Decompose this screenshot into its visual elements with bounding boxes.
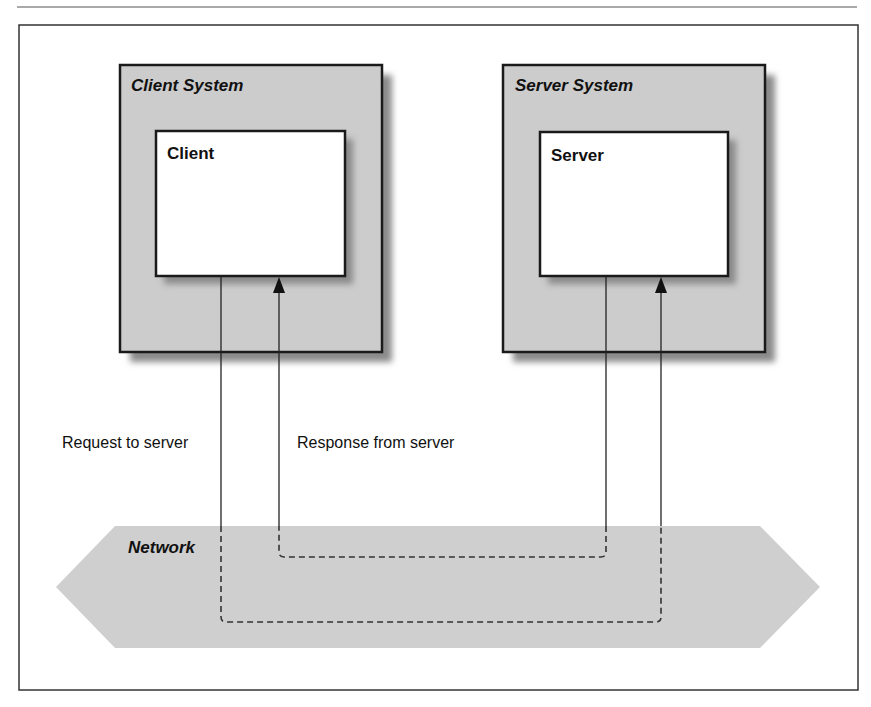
server-system-label: Server System [515,76,633,95]
network-label: Network [128,538,197,557]
client-label: Client [167,144,215,163]
server-label: Server [551,146,604,165]
server-system: Server System Server [503,65,775,362]
request-label: Request to server [62,434,189,451]
client-system-label: Client System [131,76,243,95]
client-server-diagram: Network Client System Client Server Syst… [0,0,871,707]
response-label: Response from server [297,434,455,451]
client-system: Client System Client [120,65,392,362]
